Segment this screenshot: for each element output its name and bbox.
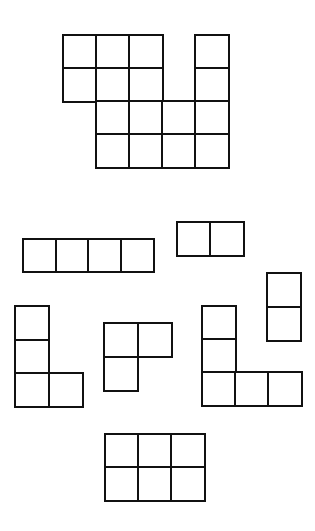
grid-cell — [128, 133, 164, 169]
grid-cell — [266, 306, 302, 342]
grid-cell — [62, 34, 98, 70]
grid-cell — [103, 322, 139, 358]
grid-cell — [55, 238, 90, 273]
grid-cell — [209, 221, 245, 257]
grid-cell — [137, 466, 173, 502]
grid-cell — [194, 67, 230, 103]
grid-cell — [201, 338, 237, 374]
grid-cell — [62, 67, 98, 103]
grid-cell — [201, 371, 237, 407]
grid-cell — [201, 305, 237, 341]
grid-cell — [176, 221, 212, 257]
grid-cell — [128, 67, 164, 103]
grid-cell — [234, 371, 270, 407]
grid-cell — [104, 433, 140, 469]
grid-cell — [170, 433, 206, 469]
grid-cell — [14, 372, 50, 408]
grid-cell — [87, 238, 122, 273]
grid-cell — [267, 371, 303, 407]
grid-cell — [104, 466, 140, 502]
grid-cell — [22, 238, 57, 273]
grid-cell — [128, 100, 164, 136]
grid-cell — [48, 372, 84, 408]
grid-cell — [103, 356, 139, 392]
grid-cell — [95, 67, 131, 103]
grid-cell — [128, 34, 164, 70]
grid-cell — [194, 34, 230, 70]
grid-cell — [161, 100, 197, 136]
grid-cell — [95, 133, 131, 169]
grid-cell — [266, 272, 302, 308]
grid-cell — [137, 433, 173, 469]
grid-cell — [161, 133, 197, 169]
grid-cell — [120, 238, 155, 273]
grid-cell — [170, 466, 206, 502]
grid-cell — [14, 339, 50, 375]
grid-cell — [137, 322, 173, 358]
grid-cell — [194, 133, 230, 169]
grid-cell — [194, 100, 230, 136]
grid-cell — [95, 34, 131, 70]
grid-cell — [95, 100, 131, 136]
grid-cell — [14, 305, 50, 341]
